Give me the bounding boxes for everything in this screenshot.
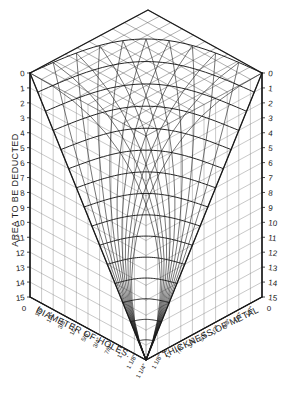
left-tick-label: 15	[15, 293, 25, 303]
bottom-right-zero: 0	[267, 304, 272, 313]
left-tick-label: 12	[15, 248, 25, 258]
page-footer-text	[0, 378, 290, 392]
right-tick-label: 13	[268, 263, 278, 273]
nomogram-chart: 0123456789101112131415012345678910111213…	[0, 0, 290, 393]
chart-background	[0, 0, 290, 393]
left-tick-label: 13	[15, 263, 25, 273]
right-tick-label: 12	[268, 248, 278, 258]
right-tick-label: 11	[268, 233, 278, 243]
right-tick-label: 15	[268, 293, 278, 303]
nomogram-svg: 0123456789101112131415012345678910111213…	[0, 0, 290, 393]
bottom-left-zero: 0	[22, 304, 27, 313]
left-axis-title: AREA TO BE DEDUCTED	[10, 133, 20, 246]
left-tick-label: 14	[15, 278, 25, 288]
right-tick-label: 10	[268, 218, 278, 228]
right-tick-label: 14	[268, 278, 278, 288]
